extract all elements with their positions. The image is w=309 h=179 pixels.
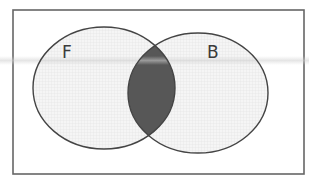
venn-diagram: F B (0, 0, 309, 179)
scan-streak (0, 56, 309, 65)
set-f-label: F (62, 42, 72, 62)
set-b-label: B (207, 42, 219, 62)
